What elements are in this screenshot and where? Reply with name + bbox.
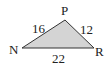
triangle-diagram: P N R 16 12 22 (0, 0, 107, 66)
vertex-label-r: R (95, 44, 104, 59)
side-label-pr: 12 (80, 22, 93, 37)
vertex-label-p: P (61, 3, 68, 18)
side-label-nr: 22 (52, 51, 65, 66)
side-label-np: 16 (32, 21, 46, 36)
vertex-label-n: N (9, 42, 19, 57)
